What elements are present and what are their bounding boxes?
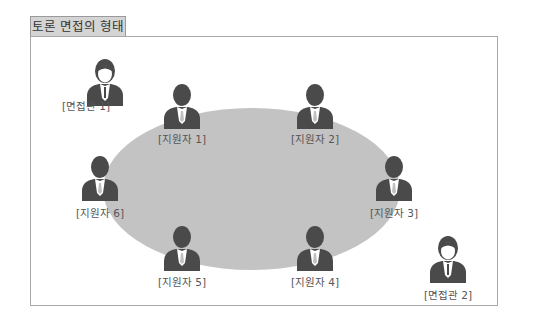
- interviewer-2-label: [면접관 2]: [424, 287, 472, 302]
- diagram-title: 토론 면접의 형태: [30, 16, 126, 36]
- interviewer-1-icon: [85, 58, 125, 102]
- applicant-5-icon: [162, 225, 202, 269]
- applicant-3-label: [지원자 3]: [370, 205, 418, 220]
- discussion-table: [103, 108, 400, 270]
- applicant-1-icon: [162, 83, 202, 127]
- applicant-5-label: [지원자 5]: [158, 274, 206, 289]
- applicant-4-icon: [295, 225, 335, 269]
- applicant-4-label: [지원자 4]: [291, 274, 339, 289]
- applicant-2-label: [지원자 2]: [291, 131, 339, 146]
- applicant-6-label: [지원자 6]: [76, 205, 124, 220]
- applicant-2-icon: [295, 83, 335, 127]
- applicant-1-label: [지원자 1]: [158, 131, 206, 146]
- applicant-3-icon: [374, 155, 414, 199]
- interviewer-2-icon: [428, 235, 468, 279]
- applicant-6-icon: [80, 155, 120, 199]
- interviewer-1-label: [면접관 1]: [62, 98, 110, 113]
